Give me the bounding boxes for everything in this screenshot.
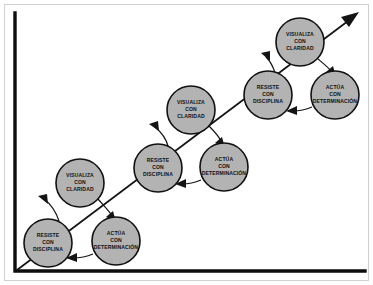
- node-label-line1: ACTÚA: [215, 156, 234, 162]
- node-label-line1: VISUALIZA: [66, 172, 94, 178]
- diagram-canvas: RESISTE CON DISCIPLINA ACTÚA CON DETERMI…: [0, 0, 373, 285]
- node-label-line1: VISUALIZA: [177, 99, 205, 105]
- node-actua-2[interactable]: ACTÚA CON DETERMINACIÓN: [200, 143, 248, 191]
- flow-arrow-resiste2-to-visualiza2: [149, 121, 168, 146]
- node-actua-1[interactable]: ACTÚA CON DETERMINACIÓN: [92, 217, 140, 265]
- flow-arrow-resiste1-to-visualiza1: [38, 194, 59, 221]
- node-label-line3: DETERMINACIÓN: [313, 97, 358, 104]
- node-visualiza-3[interactable]: VISUALIZA CON CLARIDAD: [276, 18, 324, 66]
- node-resiste-3[interactable]: RESISTE CON DISCIPLINA: [244, 71, 292, 119]
- node-label-line1: ACTÚA: [107, 230, 126, 236]
- cycle-staircase-diagram: RESISTE CON DISCIPLINA ACTÚA CON DETERMI…: [0, 0, 373, 285]
- node-label-line3: CLARIDAD: [286, 45, 314, 51]
- node-label-line2: CON: [262, 91, 274, 97]
- node-label-line2: CON: [294, 38, 306, 44]
- node-label-line1: ACTÚA: [326, 84, 345, 90]
- node-label-line2: CON: [152, 164, 164, 170]
- node-label-line1: RESISTE: [257, 84, 280, 90]
- node-actua-3[interactable]: ACTÚA CON DETERMINACIÓN: [311, 71, 359, 119]
- node-label-line2: CON: [74, 179, 86, 185]
- node-label-line1: RESISTE: [147, 157, 170, 163]
- node-label-line3: DETERMINACIÓN: [94, 243, 139, 250]
- flow-arrow-resiste3-to-visualiza3: [261, 51, 275, 73]
- node-label-line2: CON: [329, 91, 341, 97]
- node-visualiza-1[interactable]: VISUALIZA CON CLARIDAD: [56, 159, 104, 207]
- node-label-line2: CON: [185, 106, 197, 112]
- node-label-line2: CON: [42, 239, 54, 245]
- node-label-line1: VISUALIZA: [286, 31, 314, 37]
- node-label-line1: RESISTE: [37, 232, 60, 238]
- node-label-line3: DISCIPLINA: [143, 171, 173, 177]
- node-resiste-2[interactable]: RESISTE CON DISCIPLINA: [134, 144, 182, 192]
- node-label-line3: DETERMINACIÓN: [202, 169, 247, 176]
- node-label-line3: CLARIDAD: [66, 186, 94, 192]
- node-label-line3: DISCIPLINA: [253, 98, 283, 104]
- node-label-line2: CON: [110, 237, 122, 243]
- node-label-line2: CON: [218, 163, 230, 169]
- node-label-line3: DISCIPLINA: [33, 246, 63, 252]
- flow-arrow-actua3-to-resiste3: [286, 106, 312, 115]
- node-visualiza-2[interactable]: VISUALIZA CON CLARIDAD: [167, 86, 215, 134]
- node-resiste-1[interactable]: RESISTE CON DISCIPLINA: [24, 219, 72, 267]
- node-label-line3: CLARIDAD: [177, 113, 205, 119]
